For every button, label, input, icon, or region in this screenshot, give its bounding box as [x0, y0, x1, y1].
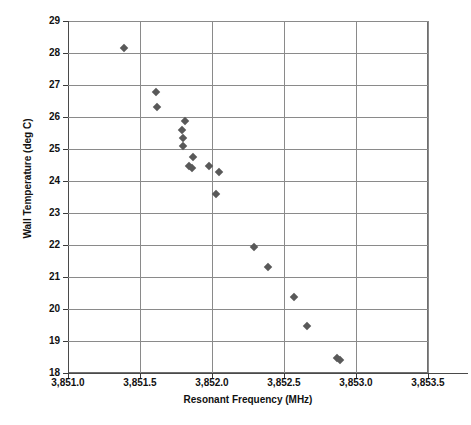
gridline-horizontal	[68, 245, 428, 246]
gridline-horizontal	[68, 181, 428, 182]
gridline-horizontal	[68, 149, 428, 150]
y-tick-mark	[63, 341, 68, 342]
y-tick-label: 27	[34, 80, 60, 90]
x-tick-label: 3,852.0	[182, 377, 242, 388]
x-axis-extension	[428, 373, 468, 374]
y-tick-mark	[63, 213, 68, 214]
y-tick-label: 20	[34, 304, 60, 314]
gridline-horizontal	[68, 53, 428, 54]
x-tick-label: 3,853.5	[398, 377, 458, 388]
scatter-chart: 181920212223242526272829 3,851.03,851.53…	[0, 0, 471, 425]
x-tick-label: 3,852.5	[254, 377, 314, 388]
y-tick-mark	[63, 277, 68, 278]
x-tick-mark	[140, 373, 141, 378]
plot-area	[68, 21, 428, 373]
y-tick-label: 28	[34, 48, 60, 58]
y-tick-label: 25	[34, 144, 60, 154]
y-tick-label: 29	[34, 16, 60, 26]
x-axis-title: Resonant Frequency (MHz)	[68, 394, 428, 405]
gridline-horizontal	[68, 85, 428, 86]
axis-left-spine	[68, 21, 69, 374]
y-tick-mark	[63, 309, 68, 310]
x-tick-mark	[212, 373, 213, 378]
axis-top-spine	[68, 21, 429, 22]
gridline-horizontal	[68, 117, 428, 118]
gridline-vertical	[140, 21, 141, 373]
y-tick-mark	[63, 149, 68, 150]
gridline-vertical	[356, 21, 357, 373]
y-axis-title: Wall Temperature (deg C)	[22, 79, 33, 279]
y-tick-label: 24	[34, 176, 60, 186]
y-tick-mark	[63, 21, 68, 22]
y-tick-mark	[63, 53, 68, 54]
x-tick-mark	[356, 373, 357, 378]
gridline-horizontal	[68, 213, 428, 214]
gridline-vertical	[212, 21, 213, 373]
y-tick-mark	[63, 85, 68, 86]
x-tick-label: 3,853.0	[326, 377, 386, 388]
y-tick-label: 26	[34, 112, 60, 122]
y-tick-label: 21	[34, 272, 60, 282]
x-tick-label: 3,851.5	[110, 377, 170, 388]
gridline-horizontal	[68, 309, 428, 310]
x-tick-mark	[428, 373, 429, 378]
gridline-horizontal	[68, 341, 428, 342]
x-tick-mark	[284, 373, 285, 378]
x-tick-mark	[68, 373, 69, 378]
y-tick-mark	[63, 245, 68, 246]
y-tick-mark	[63, 117, 68, 118]
y-tick-mark	[63, 181, 68, 182]
y-tick-label: 22	[34, 240, 60, 250]
y-tick-label: 19	[34, 336, 60, 346]
x-tick-label: 3,851.0	[38, 377, 98, 388]
gridline-horizontal	[68, 277, 428, 278]
y-tick-label: 23	[34, 208, 60, 218]
axis-right-spine	[428, 21, 429, 374]
gridline-vertical	[284, 21, 285, 373]
axis-bottom-spine	[68, 373, 429, 374]
